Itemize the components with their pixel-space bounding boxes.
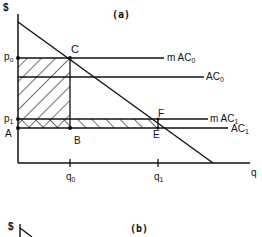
q0-label: q0 xyxy=(66,172,75,185)
panel-b-demand-curve xyxy=(20,228,32,237)
c-label: C xyxy=(71,44,79,54)
x-axis-label: q xyxy=(251,168,257,178)
y-axis-label: $ xyxy=(3,3,9,13)
point-p1 xyxy=(16,117,20,121)
p1-label: p1 xyxy=(4,114,13,127)
q1-label: q1 xyxy=(154,172,163,185)
point-p0 xyxy=(16,56,20,60)
point-b xyxy=(68,126,72,130)
f-label: F xyxy=(158,109,164,119)
panel-b-y-axis-label: $ xyxy=(8,222,14,232)
ac0-label: AC0 xyxy=(206,72,224,85)
hatched-area-q0 xyxy=(18,58,70,128)
a-label: A xyxy=(5,129,12,139)
mac0-label: m AC0 xyxy=(167,53,195,66)
p0-label: po xyxy=(4,52,13,65)
b-label: B xyxy=(74,136,81,146)
panel-b-title: (b) xyxy=(130,224,148,234)
panel-a-title: (a) xyxy=(112,10,130,20)
e-label: E xyxy=(153,130,160,140)
hatched-area-q1 xyxy=(18,119,158,128)
point-a xyxy=(16,126,20,130)
point-c xyxy=(68,56,72,60)
ac1-label: AC1 xyxy=(231,124,249,137)
